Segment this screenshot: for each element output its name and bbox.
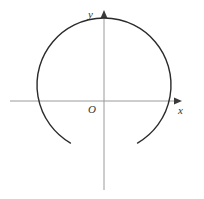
- x-axis-label: x: [178, 105, 183, 116]
- coordinate-plane-figure: [0, 0, 204, 199]
- y-axis-label: y: [88, 9, 93, 20]
- figure-container: y x O: [0, 0, 204, 199]
- origin-label: O: [88, 104, 96, 115]
- y-axis-arrow-icon: [101, 10, 108, 18]
